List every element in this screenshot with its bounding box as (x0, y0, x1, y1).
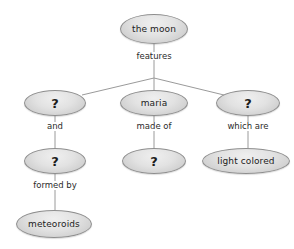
node-maria-label: maria (141, 98, 168, 108)
node-middle-question-label: ? (150, 154, 158, 169)
node-right-question-1-label: ? (244, 96, 252, 111)
node-left-question-1-label: ? (51, 96, 59, 111)
node-left-question-2[interactable]: ? (24, 148, 86, 174)
node-right-question-1[interactable]: ? (216, 90, 280, 116)
node-left-question-1[interactable]: ? (24, 90, 86, 116)
node-light-colored[interactable]: light colored (202, 148, 290, 174)
node-meteoroids-label: meteoroids (28, 219, 80, 229)
edge-label-features: features (136, 51, 171, 61)
node-left-question-2-label: ? (51, 154, 59, 169)
edge-label-formed-by: formed by (33, 180, 77, 190)
node-maria[interactable]: maria (120, 90, 188, 116)
node-the-moon-label: the moon (132, 24, 176, 34)
edge-label-made-of: made of (136, 121, 171, 131)
node-meteoroids[interactable]: meteoroids (16, 210, 92, 238)
node-light-colored-label: light colored (217, 156, 274, 166)
edge-label-which-are: which are (227, 121, 268, 131)
node-middle-question[interactable]: ? (122, 148, 186, 174)
concept-map-canvas: the moon ? maria ? ? ? light colored met… (0, 0, 294, 249)
node-the-moon[interactable]: the moon (120, 14, 188, 44)
edge-label-and: and (47, 121, 63, 131)
